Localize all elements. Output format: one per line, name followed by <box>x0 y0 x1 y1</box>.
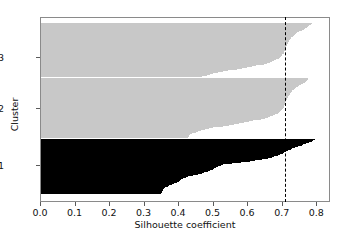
x-axis-label: Silhouette coefficient <box>40 219 330 230</box>
x-tick-mark-2 <box>109 202 110 206</box>
y-tick-label-2: 2 <box>0 103 4 114</box>
average-silhouette-dashed-line <box>285 17 286 202</box>
y-tick-label-1: 1 <box>0 160 4 171</box>
x-tick-label-7: 0.7 <box>264 207 300 218</box>
cluster-band-2 <box>41 78 308 137</box>
y-tick-label-3: 3 <box>0 52 4 63</box>
x-tick-mark-7 <box>282 202 283 206</box>
y-tick-mark-1 <box>36 165 40 166</box>
x-tick-label-0: 0.0 <box>22 207 58 218</box>
clipped-title-fragment <box>18 0 208 9</box>
plot-axes-area <box>40 17 330 202</box>
x-tick-mark-3 <box>144 202 145 206</box>
x-tick-mark-1 <box>75 202 76 206</box>
x-tick-label-6: 0.6 <box>229 207 265 218</box>
x-tick-mark-5 <box>213 202 214 206</box>
x-tick-label-2: 0.2 <box>91 207 127 218</box>
silhouette-plot-figure: 321 Cluster 0.00.10.20.30.40.50.60.70.8 … <box>0 0 347 237</box>
cluster-band-1 <box>41 139 315 194</box>
x-tick-label-5: 0.5 <box>195 207 231 218</box>
y-axis-label: Cluster <box>9 70 20 160</box>
x-tick-mark-4 <box>178 202 179 206</box>
y-tick-mark-2 <box>36 108 40 109</box>
x-tick-label-4: 0.4 <box>160 207 196 218</box>
cluster-band-3 <box>41 23 312 77</box>
x-tick-label-8: 0.8 <box>298 207 334 218</box>
x-tick-label-1: 0.1 <box>57 207 93 218</box>
x-tick-mark-6 <box>247 202 248 206</box>
x-tick-mark-8 <box>316 202 317 206</box>
x-tick-label-3: 0.3 <box>126 207 162 218</box>
x-tick-mark-0 <box>40 202 41 206</box>
y-tick-mark-3 <box>36 57 40 58</box>
